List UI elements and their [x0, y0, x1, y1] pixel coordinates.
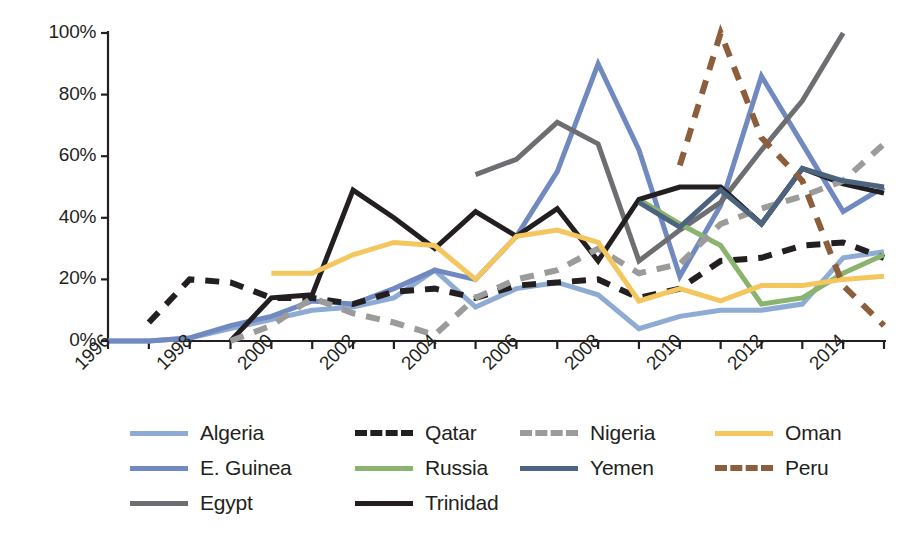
legend-item-oman[interactable]: Oman [715, 420, 841, 446]
legend-swatch-nigeria [520, 430, 578, 436]
legend-swatch-yemen [520, 466, 578, 471]
series-line-peru [680, 33, 884, 326]
y-axis-tick-label: 40% [59, 206, 96, 228]
series-layer [108, 33, 884, 341]
legend-swatch-e-guinea [130, 466, 188, 471]
legend-item-trinidad[interactable]: Trinidad [355, 490, 499, 516]
legend-label-egypt: Egypt [200, 491, 253, 515]
legend-swatch-peru [715, 465, 773, 471]
legend-item-egypt[interactable]: Egypt [130, 490, 253, 516]
legend-label-e-guinea: E. Guinea [200, 456, 292, 480]
legend-label-yemen: Yemen [590, 456, 654, 480]
legend-label-qatar: Qatar [425, 421, 477, 445]
chart-figure: 0%20%40%60%80%100% 199619982000200220042… [0, 0, 898, 538]
y-axis-tick-label: 20% [59, 267, 96, 289]
legend-label-oman: Oman [785, 421, 841, 445]
legend-item-yemen[interactable]: Yemen [520, 455, 654, 481]
legend-label-trinidad: Trinidad [425, 491, 499, 515]
legend-swatch-algeria [130, 431, 188, 436]
legend-item-e-guinea[interactable]: E. Guinea [130, 455, 292, 481]
legend-swatch-trinidad [355, 501, 413, 506]
legend-swatch-egypt [130, 501, 188, 506]
legend-item-russia[interactable]: Russia [355, 455, 488, 481]
legend-label-algeria: Algeria [200, 421, 264, 445]
legend-label-nigeria: Nigeria [590, 421, 655, 445]
legend-item-nigeria[interactable]: Nigeria [520, 420, 655, 446]
series-line-yemen [639, 169, 884, 228]
legend-swatch-oman [715, 431, 773, 436]
legend-swatch-qatar [355, 430, 413, 436]
legend-label-peru: Peru [785, 456, 829, 480]
legend-label-russia: Russia [425, 456, 488, 480]
legend-swatch-russia [355, 466, 413, 471]
legend-item-algeria[interactable]: Algeria [130, 420, 264, 446]
legend-item-peru[interactable]: Peru [715, 455, 829, 481]
y-axis-tick-label: 100% [49, 21, 96, 43]
legend-item-qatar[interactable]: Qatar [355, 420, 477, 446]
y-axis-tick-label: 60% [59, 144, 96, 166]
y-axis-tick-label: 80% [59, 83, 96, 105]
